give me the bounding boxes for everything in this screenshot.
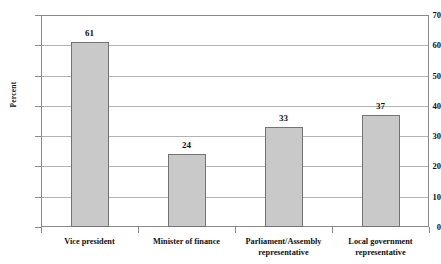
bars-layer: 61243337 [41, 15, 429, 227]
bar[interactable] [71, 42, 109, 227]
bar-value-label: 24 [182, 141, 191, 150]
y-axis-title: Percent [9, 94, 18, 108]
x-axis-category-label: Vice president [41, 236, 138, 247]
bar[interactable] [362, 115, 400, 227]
bar-value-label: 37 [376, 102, 385, 111]
x-axis-category-label: Minister of finance [138, 236, 235, 247]
bar-value-label: 33 [279, 114, 288, 123]
bar-chart: Percent 010203040506070 61243337 Vice pr… [0, 0, 441, 264]
x-tick-mark [235, 227, 236, 233]
x-axis-category-label: Local government representative [332, 236, 429, 258]
bar-value-label: 61 [85, 29, 94, 38]
x-axis-category-label: Parliament/Assembly representative [235, 236, 332, 258]
x-tick-mark [429, 227, 430, 233]
x-tick-mark-origin [41, 227, 42, 233]
x-tick-mark [138, 227, 139, 233]
bar-group: 33 [235, 15, 332, 227]
bar[interactable] [168, 154, 206, 227]
x-tick-mark [332, 227, 333, 233]
bar-group: 24 [138, 15, 235, 227]
bar-group: 61 [41, 15, 138, 227]
bar-group: 37 [332, 15, 429, 227]
bar[interactable] [265, 127, 303, 227]
